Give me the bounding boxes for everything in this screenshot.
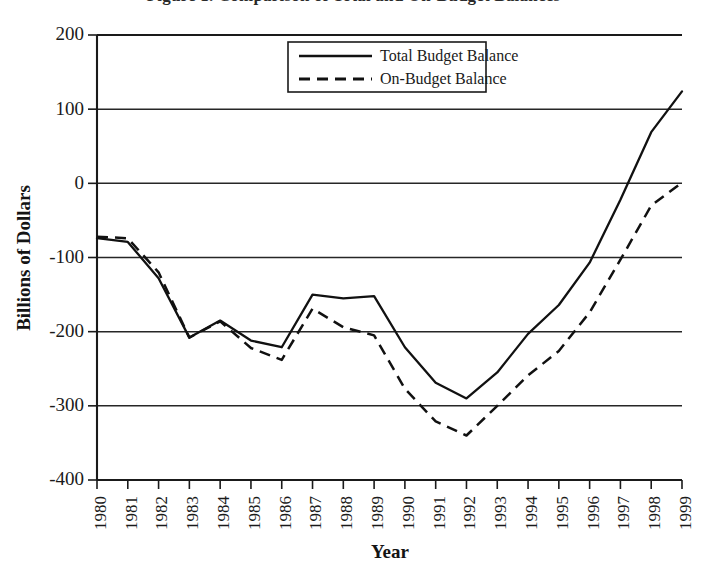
series-line-1 (97, 91, 682, 398)
y-axis-tick-labels: 2001000-100-200-300-400 (49, 23, 84, 489)
x-tick-label: 1980 (91, 496, 110, 530)
chart-page: Figure 1. Comparison of Total and On-Bud… (0, 0, 707, 580)
gridlines (97, 35, 682, 480)
x-tick-label: 1992 (460, 496, 479, 530)
x-axis-tick-labels: 1980198119821983198419851986198719881989… (91, 496, 695, 531)
budget-balance-line-chart: 2001000-100-200-300-400 1980198119821983… (0, 0, 707, 580)
x-tick-label: 1998 (645, 496, 664, 530)
x-tick-label: 1988 (337, 496, 356, 530)
legend-label-2: On-Budget Balance (380, 70, 507, 88)
x-tick-label: 1985 (245, 496, 264, 530)
x-tick-label: 1983 (183, 496, 202, 530)
legend-label-1: Total Budget Balance (380, 47, 518, 65)
y-tick-label: -100 (49, 246, 84, 267)
x-tick-label: 1991 (430, 496, 449, 530)
y-tick-label: -300 (49, 394, 84, 415)
x-tick-label: 1984 (214, 496, 233, 531)
x-tick-label: 1986 (276, 496, 295, 530)
y-tick-label: 100 (56, 98, 85, 119)
x-tick-label: 1990 (399, 496, 418, 530)
x-tick-label: 1997 (614, 496, 633, 531)
x-tick-label: 1996 (584, 496, 603, 530)
x-tick-label: 1993 (491, 496, 510, 530)
x-tick-label: 1981 (122, 496, 141, 530)
x-tick-label: 1989 (368, 496, 387, 530)
y-tick-label: 0 (75, 172, 85, 193)
axis-ticks (88, 35, 682, 489)
x-tick-label: 1994 (522, 496, 541, 531)
x-tick-label: 1999 (676, 496, 695, 530)
x-axis-title: Year (371, 541, 410, 562)
x-tick-label: 1982 (152, 496, 171, 530)
x-tick-label: 1987 (306, 496, 325, 531)
data-series (97, 91, 682, 435)
chart-legend[interactable]: Total Budget BalanceOn-Budget Balance (288, 42, 518, 92)
y-tick-label: -400 (49, 468, 84, 489)
y-tick-label: 200 (56, 23, 85, 44)
y-axis-title: Billions of Dollars (13, 185, 34, 331)
x-tick-label: 1995 (553, 496, 572, 530)
y-tick-label: -200 (49, 320, 84, 341)
series-line-2 (97, 183, 682, 436)
